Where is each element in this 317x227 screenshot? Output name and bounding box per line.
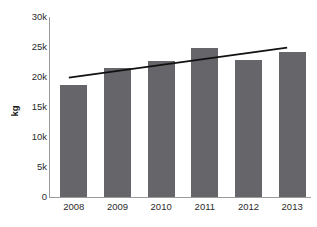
x-tick-label: 2009 (96, 202, 140, 212)
y-tick-label: 15k (1, 102, 47, 112)
y-tick-label: 20k (1, 72, 47, 82)
bar (279, 52, 306, 197)
chart-title (38, 0, 308, 3)
y-tick-label: 0 (1, 192, 47, 202)
y-tick-label: 5k (1, 162, 47, 172)
bar (60, 85, 87, 197)
y-tick-label: 30k (1, 12, 47, 22)
x-tick-label: 2012 (227, 202, 271, 212)
y-tick-label: 25k (1, 42, 47, 52)
x-axis-line (49, 197, 311, 198)
bar (148, 61, 175, 197)
bar (191, 48, 218, 197)
x-tick-label: 2011 (183, 202, 227, 212)
y-tick-label: 10k (1, 132, 47, 142)
y-axis-line (49, 17, 50, 198)
plot-area (49, 17, 311, 198)
x-tick-label: 2013 (270, 202, 314, 212)
trend-line (49, 17, 311, 198)
bar (235, 60, 262, 197)
bar-chart: kg 05k10k15k20k25k30k 200820092010201120… (0, 0, 317, 227)
y-axis-tick-labels: 05k10k15k20k25k30k (0, 0, 47, 227)
x-tick-label: 2008 (52, 202, 96, 212)
x-tick-label: 2010 (139, 202, 183, 212)
bar (104, 68, 131, 197)
